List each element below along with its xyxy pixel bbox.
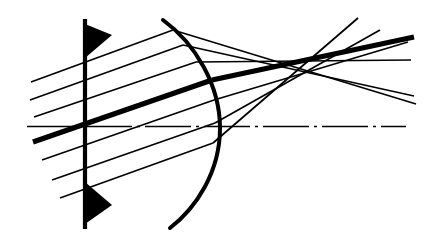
- optical-ray-diagram: [0, 0, 429, 238]
- figure-background: [0, 0, 429, 238]
- ray-diagram-canvas: [0, 0, 429, 238]
